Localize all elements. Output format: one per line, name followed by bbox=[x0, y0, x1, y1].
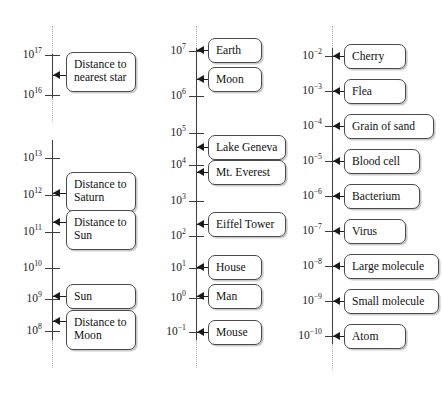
callout-man[interactable]: Man bbox=[208, 284, 262, 309]
arrowhead-moon-distance bbox=[53, 317, 60, 325]
callout-label: Bacterium bbox=[352, 190, 400, 203]
arrowhead-virus bbox=[333, 227, 340, 235]
callout-distance-to-nearest-star[interactable]: Distance to nearest star bbox=[66, 52, 136, 92]
callout-label: Flea bbox=[352, 85, 372, 98]
tick-label-1em9: 10−9 bbox=[280, 295, 322, 307]
tick-label-1em5: 10−5 bbox=[280, 155, 322, 167]
axis-dotted-bottom-col2 bbox=[196, 340, 197, 368]
tick-1e4 bbox=[189, 165, 204, 166]
callout-lake-geneva[interactable]: Lake Geneva bbox=[208, 135, 286, 160]
callout-distance-to-sun[interactable]: Distance to Sun bbox=[66, 210, 136, 250]
callout-label: Eiffel Tower bbox=[216, 218, 274, 231]
callout-label: Mt. Everest bbox=[216, 166, 270, 179]
callout-mt-everest[interactable]: Mt. Everest bbox=[208, 160, 286, 185]
tick-1e3 bbox=[189, 201, 204, 202]
tick-label-1em10: 10−10 bbox=[274, 330, 322, 342]
tick-label-1em1: 10−1 bbox=[144, 326, 186, 338]
tick-label-1em2: 10−2 bbox=[280, 50, 322, 62]
callout-line-2: Sun bbox=[74, 229, 128, 242]
callout-large-molecule[interactable]: Large molecule bbox=[344, 254, 439, 279]
arrowhead-cherry bbox=[333, 52, 340, 60]
callout-line-2: nearest star bbox=[74, 71, 128, 84]
tick-label-1e5: 105 bbox=[150, 127, 186, 139]
tick-label-1em7: 10−7 bbox=[280, 225, 322, 237]
tick-label-1e6: 106 bbox=[150, 90, 186, 102]
callout-moon[interactable]: Moon bbox=[208, 67, 262, 92]
callout-mouse[interactable]: Mouse bbox=[208, 320, 262, 345]
axis-dotted-bottom-col1 bbox=[52, 340, 53, 368]
tick-label-1e1: 101 bbox=[150, 262, 186, 274]
tick-1e5 bbox=[189, 133, 204, 134]
callout-line-1: Distance to bbox=[74, 58, 128, 71]
tick-label-1e8: 108 bbox=[2, 325, 42, 337]
callout-line-1: Distance to bbox=[74, 178, 128, 191]
callout-sun[interactable]: Sun bbox=[66, 284, 136, 309]
tick-label-1e17: 1017 bbox=[2, 49, 42, 61]
callout-bacterium[interactable]: Bacterium bbox=[344, 184, 420, 209]
tick-label-1e12: 1012 bbox=[2, 189, 42, 201]
tick-label-1em4: 10−4 bbox=[280, 120, 322, 132]
callout-distance-to-saturn[interactable]: Distance to Saturn bbox=[66, 172, 136, 212]
axis-dotted-top-col1 bbox=[52, 26, 53, 54]
arrowhead-sun-distance bbox=[53, 218, 60, 226]
callout-eiffel-tower[interactable]: Eiffel Tower bbox=[208, 212, 286, 237]
axis-line-lower-col1 bbox=[52, 140, 53, 340]
tick-1e10 bbox=[45, 268, 60, 269]
callout-line-1: Distance to bbox=[74, 316, 128, 329]
log-scale-diagram: 1017 1016 1013 1012 1011 1010 109 108 bbox=[0, 0, 443, 394]
arrowhead-man bbox=[197, 292, 204, 300]
callout-label: Atom bbox=[352, 330, 378, 343]
callout-earth[interactable]: Earth bbox=[208, 38, 262, 63]
callout-label: Blood cell bbox=[352, 155, 400, 168]
arrowhead-nearest-star bbox=[53, 71, 60, 79]
arrowhead-saturn bbox=[53, 189, 60, 197]
axis-dotted-break-upper-col1 bbox=[52, 98, 53, 122]
tick-label-1e13: 1013 bbox=[2, 152, 42, 164]
callout-label: Cherry bbox=[352, 50, 384, 63]
tick-label-1e4: 104 bbox=[150, 159, 186, 171]
callout-virus[interactable]: Virus bbox=[344, 219, 406, 244]
tick-label-1em3: 10−3 bbox=[280, 85, 322, 97]
callout-cherry[interactable]: Cherry bbox=[344, 44, 406, 69]
callout-label: Moon bbox=[216, 73, 244, 86]
arrowhead-earth bbox=[197, 46, 204, 54]
callout-atom[interactable]: Atom bbox=[344, 324, 406, 349]
arrowhead-moon bbox=[197, 75, 204, 83]
arrowhead-lake-geneva bbox=[197, 143, 204, 151]
callout-line-2: Saturn bbox=[74, 191, 128, 204]
callout-blood-cell[interactable]: Blood cell bbox=[344, 149, 420, 174]
callout-flea[interactable]: Flea bbox=[344, 79, 406, 104]
callout-label: Man bbox=[216, 290, 237, 303]
callout-house[interactable]: House bbox=[208, 255, 262, 280]
axis-dotted-bottom-col3 bbox=[332, 344, 333, 370]
arrowhead-blood-cell bbox=[333, 157, 340, 165]
callout-label: Lake Geneva bbox=[216, 141, 277, 154]
tick-label-1e0: 100 bbox=[150, 292, 186, 304]
arrowhead-small-molecule bbox=[333, 297, 340, 305]
tick-1e16 bbox=[45, 95, 60, 96]
axis-dotted-top-col3 bbox=[332, 26, 333, 48]
callout-small-molecule[interactable]: Small molecule bbox=[344, 289, 439, 314]
tick-1e17 bbox=[45, 55, 60, 56]
callout-label: Earth bbox=[216, 44, 241, 57]
arrowhead-atom bbox=[333, 332, 340, 340]
tick-label-1em6: 10−6 bbox=[280, 190, 322, 202]
callout-label: House bbox=[216, 261, 246, 274]
arrowhead-grain-of-sand bbox=[333, 122, 340, 130]
callout-line-1: Distance to bbox=[74, 216, 128, 229]
arrowhead-house bbox=[197, 263, 204, 271]
tick-label-1e9: 109 bbox=[2, 293, 42, 305]
callout-label: Sun bbox=[74, 290, 92, 303]
callout-distance-to-moon[interactable]: Distance to Moon bbox=[66, 310, 136, 350]
tick-label-1e16: 1016 bbox=[2, 89, 42, 101]
arrowhead-flea bbox=[333, 87, 340, 95]
arrowhead-bacterium bbox=[333, 192, 340, 200]
arrowhead-eiffel-tower bbox=[197, 220, 204, 228]
tick-1e11 bbox=[45, 232, 60, 233]
tick-1e8 bbox=[45, 331, 60, 332]
callout-grain-of-sand[interactable]: Grain of sand bbox=[344, 114, 434, 139]
tick-label-1e3: 103 bbox=[150, 195, 186, 207]
callout-label: Mouse bbox=[216, 326, 248, 339]
tick-1e2 bbox=[189, 236, 204, 237]
arrowhead-mt-everest bbox=[197, 168, 204, 176]
